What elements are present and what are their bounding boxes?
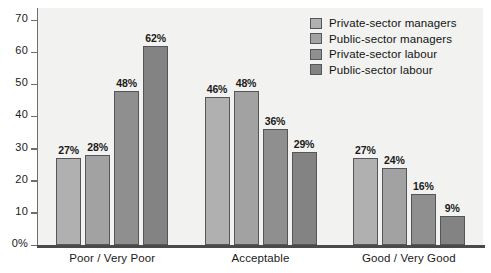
bar-value-label: 27% (58, 144, 79, 156)
y-axis-tick-mark (31, 212, 37, 214)
bar: 24% (382, 168, 407, 245)
bar: 27% (353, 158, 378, 245)
legend-swatch (310, 49, 322, 60)
y-axis-tick-label: 40 (15, 108, 28, 120)
legend-item-label: Public-sector labour (329, 64, 433, 76)
bar-chart: 0%10203040506070 27%28%48%62%46%48%36%29… (0, 0, 491, 273)
y-axis-tick-mark (31, 148, 37, 150)
y-axis-tick-label: 0% (12, 237, 28, 249)
bar-value-label: 62% (145, 32, 166, 44)
bar: 16% (411, 194, 436, 245)
legend-swatch (310, 18, 322, 29)
legend-item[interactable]: Private-sector labour (310, 47, 457, 62)
bar-value-label: 27% (355, 144, 376, 156)
y-axis-tick-mark (31, 245, 37, 247)
legend-item[interactable]: Private-sector managers (310, 16, 457, 31)
y-axis-tick-label: 30 (15, 141, 28, 153)
bar-value-label: 24% (384, 154, 405, 166)
bar: 9% (440, 216, 465, 245)
bar-value-label: 29% (294, 138, 315, 150)
bar-value-label: 9% (445, 202, 460, 214)
legend-item-label: Private-sector managers (329, 17, 457, 29)
y-axis-tick-mark (31, 116, 37, 118)
bar-value-label: 46% (207, 83, 228, 95)
y-axis-tick-label: 50 (15, 76, 28, 88)
bar: 48% (114, 91, 139, 245)
x-axis-baseline (37, 245, 485, 248)
legend-item-label: Private-sector labour (329, 48, 437, 60)
y-axis-tick-label: 60 (15, 44, 28, 56)
bar: 48% (234, 91, 259, 245)
bar-value-label: 28% (87, 141, 108, 153)
y-axis-tick-label: 10 (15, 205, 28, 217)
bar: 28% (85, 155, 110, 245)
bar: 62% (143, 46, 168, 245)
x-axis-category-label: Good / Very Good (335, 252, 483, 264)
legend-swatch (310, 33, 322, 44)
y-axis-tick-mark (31, 84, 37, 86)
legend: Private-sector managersPublic-sector man… (310, 16, 457, 78)
y-axis-tick-label: 20 (15, 173, 28, 185)
bar: 46% (205, 97, 230, 245)
bar-value-label: 48% (116, 77, 137, 89)
legend-item[interactable]: Public-sector managers (310, 32, 457, 47)
y-axis-tick-mark (31, 20, 37, 22)
y-axis-tick-label: 70 (15, 12, 28, 24)
legend-swatch (310, 64, 322, 75)
bar: 36% (263, 129, 288, 245)
legend-item[interactable]: Public-sector labour (310, 63, 457, 78)
bar-value-label: 16% (413, 180, 434, 192)
x-axis-category-label: Poor / Very Poor (38, 252, 186, 264)
y-axis-tick-mark (31, 180, 37, 182)
y-axis-tick-mark (31, 52, 37, 54)
legend-item-label: Public-sector managers (329, 33, 452, 45)
x-axis-category-label: Acceptable (186, 252, 334, 264)
bar-value-label: 48% (236, 77, 257, 89)
bar: 29% (292, 152, 317, 245)
bar: 27% (56, 158, 81, 245)
bar-value-label: 36% (265, 115, 286, 127)
